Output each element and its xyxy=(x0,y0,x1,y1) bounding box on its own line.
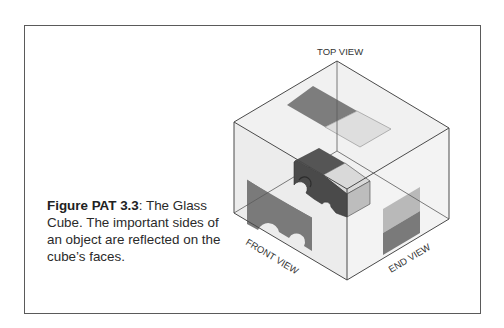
top-view-label: TOP VIEW xyxy=(317,46,363,57)
glass-cube-diagram: TOP VIEW FRONT VIEW END VIEW xyxy=(0,0,504,328)
